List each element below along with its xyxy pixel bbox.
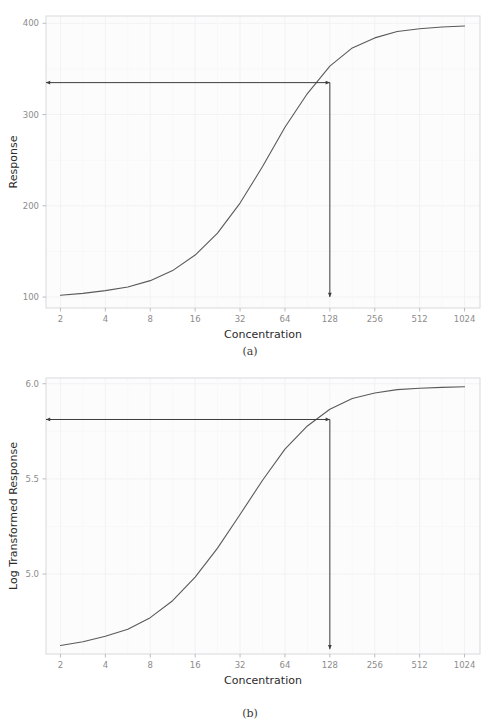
x-tick-label: 64 [280,314,291,324]
figure-container: · · ·· · 2481632641282565121024100200300… [0,0,500,728]
x-axis-title: Concentration [224,328,302,340]
y-tick-label: 5.0 [25,569,39,579]
y-tick-label: 100 [23,292,39,302]
caption-a: (a) [0,345,500,358]
x-tick-label: 256 [367,314,383,324]
x-tick-label: 8 [148,314,153,324]
y-axis: 5.05.56.0 [25,379,46,579]
x-tick-label: 128 [322,660,338,670]
x-tick-label: 2 [58,314,63,324]
x-tick-label: 1024 [454,660,476,670]
y-axis: 100200300400 [23,18,46,302]
y-tick-label: 200 [23,201,39,211]
x-tick-label: 1024 [454,314,476,324]
x-tick-label: 128 [322,314,338,324]
panel-a: 2481632641282565121024100200300400Concen… [0,0,500,340]
x-tick-label: 64 [280,660,291,670]
y-axis-title: Response [7,135,20,188]
panel-b: 24816326412825651210245.05.56.0Concentra… [0,362,500,702]
x-tick-label: 512 [412,660,428,670]
x-tick-label: 16 [190,314,201,324]
x-tick-label: 32 [235,660,246,670]
y-tick-label: 5.5 [25,474,39,484]
x-tick-label: 4 [103,660,108,670]
y-tick-label: 6.0 [25,379,39,389]
x-axis: 2481632641282565121024 [58,308,476,324]
x-tick-label: 32 [235,314,246,324]
x-axis-title: Concentration [224,674,302,687]
x-tick-label: 512 [412,314,428,324]
plot-background [46,16,480,308]
y-axis-title: Log Transformed Response [7,442,20,590]
x-tick-label: 16 [190,660,201,670]
x-tick-label: 8 [148,660,153,670]
y-tick-label: 400 [23,18,39,28]
y-tick-label: 300 [23,110,39,120]
x-axis: 2481632641282565121024 [58,654,476,670]
x-tick-label: 4 [103,314,108,324]
x-tick-label: 256 [367,660,383,670]
chart-panel-b: 24816326412825651210245.05.56.0Concentra… [0,362,500,702]
caption-b: (b) [0,707,500,720]
x-tick-label: 2 [58,660,63,670]
chart-panel-a: 2481632641282565121024100200300400Concen… [0,0,500,340]
